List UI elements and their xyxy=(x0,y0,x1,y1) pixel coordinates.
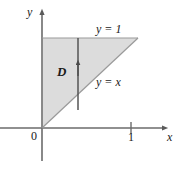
diagram-canvas xyxy=(0,0,181,169)
region-label-d: D xyxy=(57,65,66,78)
x-tick-label-1: 1 xyxy=(128,131,134,143)
figure-region-d: y x 0 1 D y = 1 y = x xyxy=(0,0,181,169)
y-axis-label: y xyxy=(27,6,32,18)
origin-label: 0 xyxy=(31,130,37,142)
equation-label-y-equals-x: y = x xyxy=(96,76,121,88)
equation-label-y-equals-1: y = 1 xyxy=(96,23,121,35)
x-axis-label: x xyxy=(167,131,172,143)
